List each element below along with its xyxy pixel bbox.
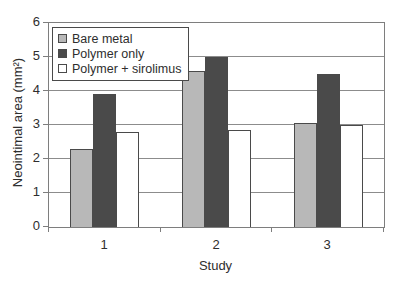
- y-tick-label-1: 1: [16, 185, 40, 199]
- legend-label-bare-metal: Bare metal: [72, 32, 132, 46]
- bar-polymer-only-study-1: [93, 94, 116, 227]
- bar-polymer-only-study-2: [205, 57, 228, 227]
- x-tick-label-3: 3: [307, 237, 347, 252]
- x-tick-mark-3: [383, 227, 384, 232]
- legend-label-polymer-only: Polymer only: [72, 47, 144, 61]
- y-tick-mark-4: [43, 90, 49, 91]
- y-tick-label-3: 3: [16, 117, 40, 131]
- bar-polymer-only-study-3: [317, 74, 340, 227]
- legend-item-polymer-sirolimus: Polymer + sirolimus: [58, 61, 181, 76]
- legend-marker-polymer-only: [58, 49, 67, 58]
- x-tick-label-1: 1: [84, 237, 124, 252]
- bar-bare-metal-study-3: [294, 123, 317, 227]
- x-tick-mark-1: [160, 227, 161, 232]
- bar-bare-metal-study-1: [70, 149, 93, 227]
- bar-polymer-sirolimus-study-3: [340, 125, 363, 227]
- legend-item-polymer-only: Polymer only: [58, 46, 181, 61]
- legend-marker-bare-metal: [58, 34, 67, 43]
- y-tick-label-0: 0: [16, 219, 40, 233]
- legend-label-polymer-sirolimus: Polymer + sirolimus: [72, 62, 181, 76]
- legend-marker-polymer-sirolimus: [58, 64, 67, 73]
- legend-item-bare-metal: Bare metal: [58, 31, 181, 46]
- y-tick-label-6: 6: [16, 15, 40, 29]
- bar-bare-metal-study-2: [182, 71, 205, 227]
- bar-group-study-3: [272, 23, 384, 227]
- y-tick-mark-5: [43, 56, 49, 57]
- y-tick-mark-2: [43, 158, 49, 159]
- bar-polymer-sirolimus-study-2: [228, 130, 251, 227]
- y-tick-mark-6: [43, 22, 49, 23]
- y-tick-label-5: 5: [16, 49, 40, 63]
- y-tick-mark-3: [43, 124, 49, 125]
- y-tick-mark-1: [43, 192, 49, 193]
- x-axis-title: Study: [48, 258, 383, 273]
- neointimal-area-bar-chart: Neointimal area (mm²) 0123456 123 Study …: [0, 0, 399, 284]
- x-tick-mark-0: [48, 227, 49, 232]
- x-tick-mark-2: [271, 227, 272, 232]
- x-tick-label-2: 2: [196, 237, 236, 252]
- y-tick-label-4: 4: [16, 83, 40, 97]
- bar-polymer-sirolimus-study-1: [116, 132, 139, 227]
- legend: Bare metalPolymer onlyPolymer + sirolimu…: [52, 27, 189, 81]
- y-tick-label-2: 2: [16, 151, 40, 165]
